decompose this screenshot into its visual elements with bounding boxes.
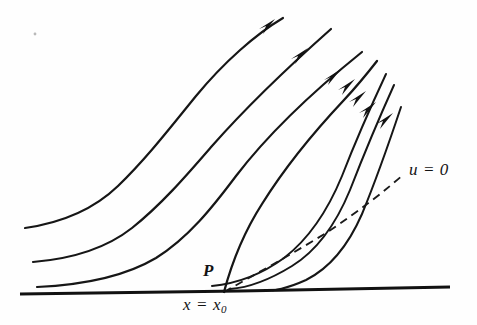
separatrix-curve <box>224 61 377 292</box>
station-label-subscript: 0 <box>221 303 227 315</box>
figure-root: P x = x0 u = 0 <box>0 0 477 325</box>
streamline-curve-1 <box>25 18 283 228</box>
arrowhead-group <box>259 19 393 129</box>
flow-arrow-icon-4 <box>338 79 355 95</box>
zero-velocity-label: u = 0 <box>409 161 449 178</box>
separation-point-label: P <box>203 262 213 279</box>
station-label: x = x0 <box>183 296 227 315</box>
station-label-main: x = x <box>183 295 221 314</box>
recirculation-curve-2 <box>230 85 394 289</box>
separation-streamline-diagram <box>0 0 477 325</box>
recirculation-curve-3 <box>272 107 401 290</box>
streamline-curve-2 <box>33 29 331 262</box>
scan-speck <box>34 33 37 36</box>
